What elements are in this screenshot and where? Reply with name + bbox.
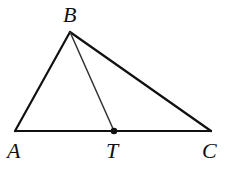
label-b: B <box>63 2 76 27</box>
side-ab <box>15 32 70 131</box>
side-bc <box>70 32 211 131</box>
label-c: C <box>202 138 217 163</box>
point-t-dot <box>111 128 118 135</box>
label-a: A <box>5 138 21 163</box>
label-t: T <box>106 138 120 163</box>
triangle-diagram: B A T C <box>0 0 229 190</box>
